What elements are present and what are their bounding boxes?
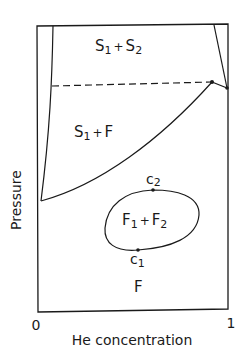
plot-frame — [37, 24, 228, 312]
critical-point-c2-label: c2 — [146, 171, 161, 189]
x-tick-0: 0 — [32, 317, 41, 333]
y-axis-label: Pressure — [8, 170, 24, 230]
triple-point-dot — [210, 80, 214, 84]
region-label-s1-s2: S1+S2 — [95, 37, 142, 57]
critical-point-c1-label: c1 — [130, 251, 145, 270]
left-solidus-line — [41, 26, 53, 201]
triple-point-segment — [212, 82, 227, 88]
region-label-f1-f2: F1+F2 — [122, 211, 167, 231]
x-axis-label: He concentration — [72, 332, 193, 348]
melting-curve — [41, 82, 212, 201]
region-label-s1-f: S1+F — [74, 123, 113, 143]
phase-diagram: S1+S2 S1+F F1+F2 F c2 c1 0 1 He concentr… — [0, 0, 244, 361]
triple-line-dashed — [52, 82, 212, 86]
right-end-dot — [225, 86, 229, 90]
right-solidus-line — [214, 25, 227, 88]
x-tick-1: 1 — [227, 315, 236, 331]
region-label-f: F — [134, 278, 143, 296]
